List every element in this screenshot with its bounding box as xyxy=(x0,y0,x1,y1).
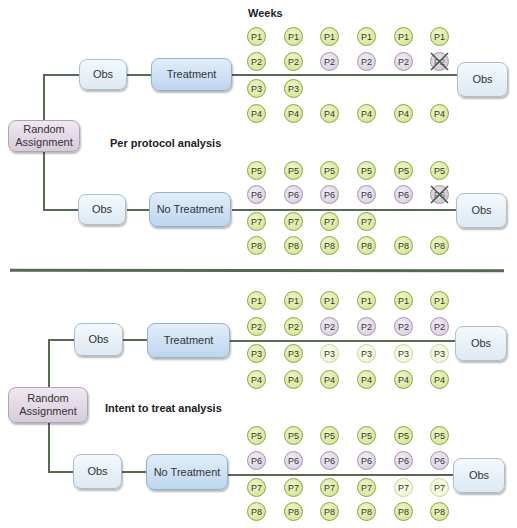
random-assignment-box: Random Assignment xyxy=(8,387,88,423)
participant-id: P6 xyxy=(434,456,445,466)
participant-marker: P5 xyxy=(247,161,266,180)
obs-pre-box: Obs xyxy=(78,194,126,225)
participant-id: P1 xyxy=(251,32,262,42)
participant-id: P2 xyxy=(288,57,299,67)
participant-id: P4 xyxy=(434,375,445,385)
obs-post-box: Obs xyxy=(455,326,507,361)
participant-marker: P7 xyxy=(394,478,413,497)
connector xyxy=(122,471,148,473)
participant-marker: P2 xyxy=(247,317,266,336)
connector xyxy=(43,150,45,210)
participant-marker: P2 xyxy=(394,52,413,71)
participant-marker: P1 xyxy=(394,291,413,310)
participant-id: P1 xyxy=(361,32,372,42)
participant-marker: P8 xyxy=(247,236,266,255)
participant-marker: P2 xyxy=(430,317,449,336)
participant-marker: P2 xyxy=(284,52,303,71)
connector xyxy=(48,421,50,473)
connector xyxy=(122,339,148,341)
participant-marker: P7 xyxy=(284,212,303,231)
participant-id: P3 xyxy=(288,349,299,359)
participant-marker: P4 xyxy=(357,104,376,123)
participant-id: P7 xyxy=(361,483,372,493)
participant-marker: P1 xyxy=(357,27,376,46)
participant-marker: P4 xyxy=(247,370,266,389)
participant-marker: P5 xyxy=(394,426,413,445)
participant-id: P5 xyxy=(251,431,262,441)
participant-marker: P6 xyxy=(357,185,376,204)
section-divider xyxy=(10,269,504,273)
participant-id: P1 xyxy=(398,32,409,42)
panel-title: Intent to treat analysis xyxy=(105,402,222,414)
participant-id: P3 xyxy=(251,84,262,94)
participant-marker: P6 xyxy=(357,451,376,470)
participant-id: P4 xyxy=(251,375,262,385)
participant-marker: P4 xyxy=(430,104,449,123)
participant-marker: P4 xyxy=(284,370,303,389)
participant-marker: P6 xyxy=(247,451,266,470)
participant-marker: P8 xyxy=(284,236,303,255)
participant-marker: P8 xyxy=(357,236,376,255)
participant-id: P8 xyxy=(288,241,299,251)
participant-id: P2 xyxy=(434,322,445,332)
weeks-label: Weeks xyxy=(248,7,283,19)
participant-marker: P7 xyxy=(357,212,376,231)
participant-marker: P8 xyxy=(394,236,413,255)
participant-marker: P4 xyxy=(394,370,413,389)
participant-marker: P5 xyxy=(357,426,376,445)
participant-marker: P7 xyxy=(320,212,339,231)
participant-marker: P4 xyxy=(320,104,339,123)
participant-id: P1 xyxy=(398,296,409,306)
participant-marker: P2 xyxy=(320,52,339,71)
participant-dropout-marker: P6 xyxy=(430,185,449,204)
participant-marker: P1 xyxy=(430,291,449,310)
participant-id: P1 xyxy=(324,296,335,306)
participant-id: P6 xyxy=(324,190,335,200)
participant-marker: P3 xyxy=(394,344,413,363)
participant-marker: P7 xyxy=(247,478,266,497)
participant-id: P5 xyxy=(324,166,335,176)
participant-marker: P3 xyxy=(284,79,303,98)
participant-id: P2 xyxy=(324,322,335,332)
obs-post-box: Obs xyxy=(457,62,508,97)
participant-marker: P3 xyxy=(430,344,449,363)
participant-id: P5 xyxy=(434,431,445,441)
participant-id: P5 xyxy=(361,431,372,441)
participant-id: P2 xyxy=(324,57,335,67)
participant-marker: P5 xyxy=(394,161,413,180)
participant-marker: P3 xyxy=(247,344,266,363)
connector xyxy=(43,74,45,122)
participant-marker: P1 xyxy=(284,291,303,310)
arm-timeline xyxy=(228,474,454,476)
participant-marker: P2 xyxy=(247,52,266,71)
participant-id: P8 xyxy=(434,241,445,251)
participant-id: P7 xyxy=(324,483,335,493)
participant-dropout-marker: P2 xyxy=(430,52,449,71)
participant-marker: P7 xyxy=(357,478,376,497)
participant-marker: P1 xyxy=(247,27,266,46)
participant-id: P2 xyxy=(398,322,409,332)
participant-marker: P6 xyxy=(394,451,413,470)
participant-marker: P4 xyxy=(357,370,376,389)
obs-post-box: Obs xyxy=(453,458,505,493)
participant-marker: P2 xyxy=(357,317,376,336)
participant-id: P1 xyxy=(434,32,445,42)
obs-pre-box: Obs xyxy=(73,454,122,489)
participant-marker: P1 xyxy=(247,291,266,310)
participant-id: P7 xyxy=(251,483,262,493)
participant-id: P7 xyxy=(288,483,299,493)
participant-id: P7 xyxy=(251,217,262,227)
participant-id: P3 xyxy=(434,349,445,359)
participant-marker: P6 xyxy=(320,451,339,470)
no-treatment-box: No Treatment xyxy=(149,192,231,227)
participant-marker: P3 xyxy=(320,344,339,363)
obs-pre-box: Obs xyxy=(74,323,123,356)
participant-id: P6 xyxy=(361,190,372,200)
participant-marker: P7 xyxy=(320,478,339,497)
connector xyxy=(48,339,50,389)
random-assignment-box: Random Assignment xyxy=(8,120,80,152)
cross-out-icon xyxy=(429,184,450,205)
participant-marker: P2 xyxy=(284,317,303,336)
connector xyxy=(43,209,79,211)
participant-marker: P5 xyxy=(430,426,449,445)
